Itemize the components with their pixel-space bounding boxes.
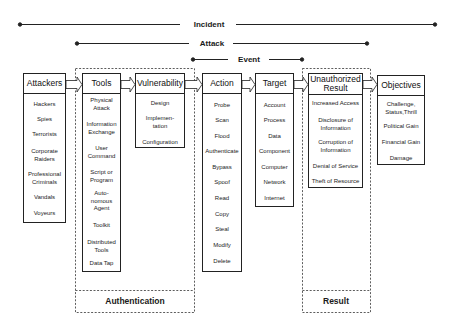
attack-label: Attack	[200, 39, 224, 48]
column-header-objectives: Objectives	[378, 76, 424, 96]
list-item: Challenge, Status,Thrill	[378, 101, 424, 116]
list-item: Script or Program	[83, 169, 120, 184]
list-item: Account	[256, 102, 293, 110]
result-label: Result	[323, 296, 349, 306]
list-item: Spies	[24, 116, 65, 124]
list-item: Computer	[256, 164, 293, 172]
incident-label: Incident	[194, 20, 225, 29]
attack-end-marker	[365, 42, 368, 45]
list-item: Toolkit	[83, 222, 120, 230]
list-item: Financial Gain	[378, 139, 424, 147]
list-item: Information Exchange	[83, 121, 120, 136]
event-label: Event	[238, 55, 260, 64]
list-item: Hackers	[24, 101, 65, 109]
list-item: Data Tap	[83, 260, 120, 268]
column-objectives: Objectives Challenge, Status,Thrill Poli…	[377, 75, 425, 165]
list-item: Copy	[203, 211, 241, 219]
list-item: Increased Access	[309, 100, 362, 108]
list-item: Bypass	[203, 164, 241, 172]
list-item: Disclosure of Information	[309, 117, 362, 132]
list-item: Configuration	[136, 139, 184, 147]
column-header-vulnerability: Vulnerability	[136, 74, 184, 94]
arrow-attackers-to-tools	[66, 77, 82, 92]
event-start-marker	[191, 58, 194, 61]
list-item: Spoof	[203, 179, 241, 187]
arrow-unauthorized-result-to-objectives	[363, 77, 377, 92]
list-item: Network	[256, 179, 293, 187]
list-item: User Command	[83, 145, 120, 160]
list-item: Implemen- tation	[136, 115, 184, 130]
incident-scope-line	[18, 23, 436, 26]
list-item: Terrorists	[24, 131, 65, 139]
column-target: Target Account Process Data Component Co…	[255, 73, 294, 207]
list-item: Internet	[256, 195, 293, 203]
column-header-unauthorized-result: Unauthorized Result	[309, 74, 362, 95]
column-action: Action Probe Scan Flood Authenticate Byp…	[202, 73, 242, 272]
list-item: Voyeurs	[24, 210, 65, 218]
authentication-label: Authentication	[105, 296, 165, 306]
list-item: Corruption of Information	[309, 139, 362, 154]
list-item: Component	[256, 148, 293, 156]
list-item: Auto- nomous Agent	[83, 190, 120, 213]
list-item: Steal	[203, 226, 241, 234]
event-end-marker	[300, 58, 303, 61]
list-item: Data	[256, 133, 293, 141]
column-header-tools: Tools	[83, 74, 120, 94]
incident-start-marker	[18, 23, 21, 26]
arrow-target-to-unauthorized-result	[294, 77, 308, 92]
list-item: Process	[256, 117, 293, 125]
column-header-target: Target	[256, 74, 293, 94]
arrow-tools-to-vulnerability	[121, 77, 135, 92]
list-item: Delete	[203, 258, 241, 266]
column-header-attackers: Attackers	[24, 74, 65, 94]
list-item: Vandals	[24, 194, 65, 202]
column-tools: Tools Physical Attack Information Exchan…	[82, 73, 121, 272]
list-item: Theft of Resource	[309, 178, 362, 186]
list-item: Damage	[378, 155, 424, 163]
column-unauthorized-result: Unauthorized Result Increased Access Dis…	[308, 73, 363, 188]
list-item: Professional Criminals	[24, 171, 65, 186]
list-item: Corporate Raiders	[24, 148, 65, 163]
arrow-vulnerability-to-action	[185, 77, 202, 92]
list-item: Flood	[203, 133, 241, 141]
arrow-action-to-target	[242, 77, 255, 92]
attack-start-marker	[75, 42, 78, 45]
list-item: Distributed Tools	[83, 239, 120, 254]
list-item: Design	[136, 100, 184, 108]
incident-end-marker	[433, 23, 436, 26]
list-item: Modify	[203, 242, 241, 250]
list-item: Authenticate	[203, 148, 241, 156]
list-item: Probe	[203, 102, 241, 110]
list-item: Read	[203, 195, 241, 203]
list-item: Political Gain	[378, 123, 424, 131]
column-header-action: Action	[203, 74, 241, 94]
column-attackers: Attackers Hackers Spies Terrorists Corpo…	[23, 73, 66, 223]
list-item: Denial of Service	[309, 163, 362, 171]
column-vulnerability: Vulnerability Design Implemen- tation Co…	[135, 73, 185, 148]
list-item: Scan	[203, 117, 241, 125]
list-item: Physical Attack	[83, 97, 120, 112]
